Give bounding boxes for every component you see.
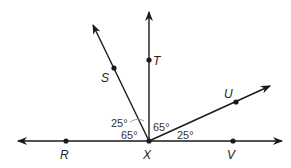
label-v: V [227, 148, 236, 162]
point-v [230, 138, 235, 143]
point-s [111, 65, 116, 70]
angle-arc-pointer [130, 119, 144, 122]
label-u: U [224, 87, 233, 101]
angle-label-sxt-outer: 25° [111, 117, 128, 129]
label-r: R [60, 148, 69, 162]
angle-label-txu: 65° [153, 121, 170, 133]
angle-label-rxs: 65° [121, 129, 138, 141]
point-r [63, 138, 68, 143]
point-u [233, 99, 238, 104]
point-t [146, 57, 151, 62]
label-t: T [153, 54, 162, 68]
angle-label-uxv: 25° [177, 129, 194, 141]
label-s: S [101, 71, 109, 85]
point-x [146, 138, 151, 143]
label-x: X [142, 148, 152, 162]
angle-diagram: R V T S U X 25° 65° 65° 25° [0, 0, 291, 168]
